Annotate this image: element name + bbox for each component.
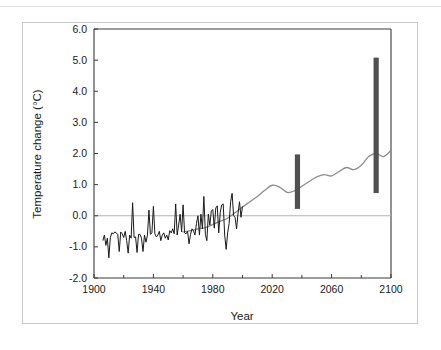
temperature-change-chart: -2.0-1.00.01.02.03.04.05.06.0 1900194019… [0,0,441,350]
y-tick-label: 6.0 [72,23,87,35]
x-axis-tick-labels: 190019401980202020602100 [82,283,403,295]
x-axis-title: Year [230,310,253,322]
x-tick-label: 2060 [320,283,344,295]
y-axis-title: Temperature change (°C) [31,89,43,218]
y-tick-label: -2.0 [69,272,87,284]
y-tick-label: -1.0 [69,240,87,252]
y-tick-label: 2.0 [72,147,87,159]
x-tick-label: 1980 [201,283,225,295]
uncertainty-range-2040 [295,154,300,208]
x-tick-label: 2100 [379,283,403,295]
y-axis-tick-labels: -2.0-1.00.01.02.03.04.05.06.0 [69,23,87,284]
uncertainty-range-2090 [374,58,379,193]
y-tick-label: 4.0 [72,85,87,97]
y-tick-label: 5.0 [72,54,87,66]
x-tick-label: 1940 [142,283,166,295]
y-tick-label: 3.0 [72,116,87,128]
figure-root: -2.0-1.00.01.02.03.04.05.06.0 1900194019… [0,0,441,350]
plot-area-background [94,29,391,278]
y-tick-label: 0.0 [72,209,87,221]
x-tick-label: 2020 [261,283,285,295]
y-tick-label: 1.0 [72,178,87,190]
x-tick-label: 1900 [82,283,106,295]
